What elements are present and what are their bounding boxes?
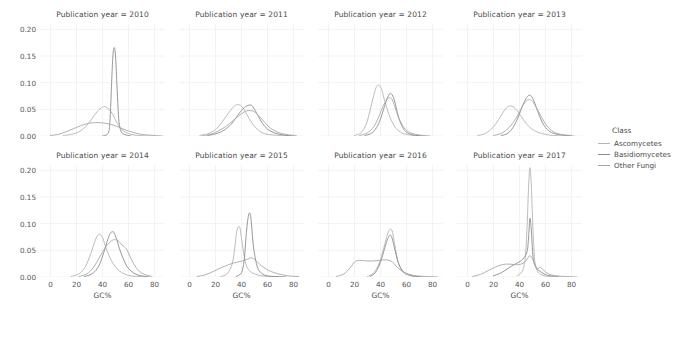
y-tick-label: 0.10 — [4, 79, 36, 88]
density-curve-ascomycetes — [478, 106, 574, 136]
x-tick-label: 80 — [282, 280, 306, 289]
density-curve-ascomycetes — [517, 168, 559, 277]
density-curve-other-fungi — [79, 240, 152, 277]
x-tick-label: 60 — [256, 280, 280, 289]
y-tick-label: 0.00 — [4, 273, 36, 282]
y-tick-label: 0.15 — [4, 52, 36, 61]
y-tick-label: 0.00 — [4, 132, 36, 141]
density-curve-basidiomycetes — [236, 213, 285, 277]
x-tick-label: 60 — [534, 280, 558, 289]
curves-2015 — [179, 165, 304, 277]
density-curve-basidiomycetes — [370, 235, 422, 277]
x-tick-label: 0 — [38, 280, 62, 289]
panel-title-2013: Publication year = 2013 — [457, 10, 582, 19]
facet-panel-2012: Publication year = 2012 — [318, 10, 455, 136]
gridlines — [40, 24, 165, 136]
legend-line-swatch — [598, 154, 610, 155]
x-axis-label: GC% — [179, 291, 304, 300]
x-tick-label: 40 — [508, 280, 532, 289]
facet-panel-2017: Publication year = 2017020406080GC% — [457, 151, 594, 277]
x-tick-label: 60 — [117, 280, 141, 289]
facet-panel-2011: Publication year = 2011 — [179, 10, 316, 136]
y-tick-label: 0.15 — [4, 193, 36, 202]
panel-title-2012: Publication year = 2012 — [318, 10, 443, 19]
legend-entries: AscomycetesBasidiomycetesOther Fungi — [598, 138, 680, 170]
facet-panel-2016: Publication year = 2016020406080GC% — [318, 151, 455, 277]
panel-title-2014: Publication year = 2014 — [40, 151, 165, 160]
facet-grid-figure: Publication year = 20100.000.050.100.150… — [0, 0, 680, 338]
curves-2016 — [318, 165, 443, 277]
density-curve-other-fungi — [202, 110, 296, 135]
x-axis-label: GC% — [318, 291, 443, 300]
x-tick-label: 40 — [230, 280, 254, 289]
density-curve-basidiomycetes — [84, 232, 149, 277]
density-curve-other-fungi — [197, 258, 299, 277]
gridlines — [179, 24, 304, 136]
panel-title-2016: Publication year = 2016 — [318, 151, 443, 160]
legend-title: Class — [612, 126, 680, 135]
x-tick-label: 20 — [64, 280, 88, 289]
y-tick-label: 0.05 — [4, 105, 36, 114]
density-curve-basidiomycetes — [365, 93, 422, 136]
y-tick-label: 0.20 — [4, 25, 36, 34]
x-tick-label: 20 — [342, 280, 366, 289]
facet-panel-2010: Publication year = 20100.000.050.100.150… — [40, 10, 177, 136]
x-tick-label: 0 — [177, 280, 201, 289]
density-curve-other-fungi — [493, 100, 571, 136]
plot-area-2016 — [318, 165, 443, 277]
x-tick-label: 20 — [481, 280, 505, 289]
facet-panel-2015: Publication year = 2015020406080GC% — [179, 151, 316, 277]
x-tick-label: 60 — [395, 280, 419, 289]
density-curve-ascomycetes — [367, 229, 424, 277]
x-tick-label: 20 — [203, 280, 227, 289]
legend: Class AscomycetesBasidiomycetesOther Fun… — [598, 126, 680, 171]
density-curve-basidiomycetes — [501, 95, 571, 136]
plot-area-2014 — [40, 165, 165, 277]
legend-label: Ascomycetes — [614, 139, 662, 148]
legend-line-swatch — [598, 143, 610, 144]
plot-area-2017 — [457, 165, 582, 277]
curves-2013 — [457, 24, 582, 136]
density-curve-ascomycetes — [221, 226, 281, 277]
facet-panel-2014: Publication year = 20140.000.050.100.150… — [40, 151, 177, 277]
density-curve-other-fungi — [336, 260, 438, 277]
gridlines — [179, 165, 304, 277]
x-tick-label: 80 — [143, 280, 167, 289]
plot-area-2012 — [318, 24, 443, 136]
density-curve-ascomycetes — [354, 85, 424, 136]
y-tick-label: 0.05 — [4, 246, 36, 255]
curves-2011 — [179, 24, 304, 136]
panel-title-2015: Publication year = 2015 — [179, 151, 304, 160]
legend-label: Other Fungi — [614, 161, 656, 170]
gridlines — [457, 165, 582, 277]
legend-item-ascomycetes[interactable]: Ascomycetes — [598, 138, 680, 148]
panel-title-2011: Publication year = 2011 — [179, 10, 304, 19]
facet-panel-2013: Publication year = 2013 — [457, 10, 594, 136]
x-tick-label: 80 — [560, 280, 584, 289]
curves-2017 — [457, 165, 582, 277]
x-tick-label: 40 — [91, 280, 115, 289]
plot-area-2015 — [179, 165, 304, 277]
gridlines — [457, 24, 582, 136]
density-curve-ascomycetes — [71, 234, 147, 277]
panel-title-2017: Publication year = 2017 — [457, 151, 582, 160]
plot-area-2011 — [179, 24, 304, 136]
legend-item-other-fungi[interactable]: Other Fungi — [598, 160, 680, 170]
curves-2010 — [40, 24, 165, 136]
legend-line-swatch — [598, 165, 610, 166]
x-tick-label: 40 — [369, 280, 393, 289]
density-curve-other-fungi — [50, 123, 162, 136]
x-tick-label: 80 — [421, 280, 445, 289]
legend-label: Basidiomycetes — [614, 150, 671, 159]
x-tick-label: 0 — [455, 280, 479, 289]
x-axis-label: GC% — [40, 291, 165, 300]
legend-item-basidiomycetes[interactable]: Basidiomycetes — [598, 149, 680, 159]
gridlines — [40, 165, 165, 277]
curves-2014 — [40, 165, 165, 277]
panel-title-2010: Publication year = 2010 — [40, 10, 165, 19]
plot-area-2010 — [40, 24, 165, 136]
y-tick-label: 0.20 — [4, 166, 36, 175]
x-axis-label: GC% — [457, 291, 582, 300]
x-tick-label: 0 — [316, 280, 340, 289]
curves-2012 — [318, 24, 443, 136]
